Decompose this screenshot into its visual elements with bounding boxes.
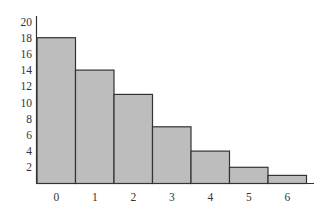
- y-tick-labels: 2468101214161820: [21, 16, 33, 174]
- x-tick-label: 6: [284, 191, 290, 203]
- x-tick-label: 4: [207, 191, 213, 203]
- bars: [37, 38, 307, 184]
- histogram-chart: 2468101214161820 0123456: [0, 0, 331, 210]
- y-tick-label: 6: [26, 129, 32, 141]
- x-tick-label: 1: [92, 191, 98, 203]
- x-tick-label: 3: [169, 191, 175, 203]
- y-tick-label: 14: [21, 64, 33, 76]
- x-tick-labels: 0123456: [53, 191, 290, 203]
- bar-1: [76, 70, 115, 183]
- y-tick-label: 4: [26, 145, 32, 157]
- bar-2: [114, 94, 153, 183]
- y-tick-label: 16: [21, 48, 33, 60]
- y-tick-label: 2: [26, 161, 32, 173]
- y-tick-label: 8: [26, 113, 32, 125]
- bar-6: [268, 175, 307, 183]
- x-tick-label: 0: [53, 191, 59, 203]
- y-tick-label: 18: [21, 32, 33, 44]
- bar-3: [153, 127, 192, 184]
- bar-5: [230, 167, 269, 183]
- bar-4: [191, 151, 230, 183]
- x-tick-label: 5: [246, 191, 252, 203]
- bar-0: [37, 38, 76, 184]
- y-tick-label: 12: [21, 80, 33, 92]
- y-tick-label: 10: [21, 97, 33, 109]
- x-tick-label: 2: [130, 191, 136, 203]
- y-tick-label: 20: [21, 16, 33, 28]
